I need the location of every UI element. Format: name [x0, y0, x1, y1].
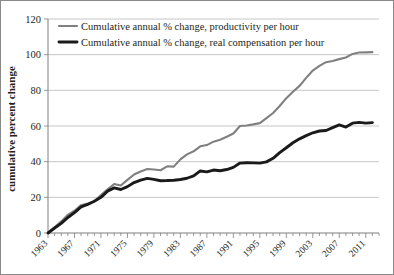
line-chart: 020406080100120 196319671971197519791983…	[1, 1, 394, 275]
x-tick-label: 1995	[241, 238, 262, 259]
y-tick-labels: 020406080100120	[25, 14, 48, 239]
x-tick-label: 1983	[161, 238, 182, 259]
data-series	[48, 52, 372, 233]
y-axis-title: cumulative percent change	[5, 66, 17, 192]
y-tick-label: 0	[36, 228, 41, 239]
y-tick-label: 120	[25, 14, 41, 25]
y-tick-label: 60	[31, 121, 42, 132]
x-tick-label: 1979	[135, 238, 156, 259]
x-tick-label: 1971	[82, 238, 103, 259]
y-tick-label: 20	[31, 192, 42, 203]
x-tick-label: 1963	[29, 238, 50, 259]
x-tick-label: 1987	[188, 238, 209, 259]
y-tick-label: 100	[25, 49, 41, 60]
chart-legend: Cumulative annual % change, productivity…	[59, 21, 325, 48]
legend-label-productivity: Cumulative annual % change, productivity…	[81, 21, 299, 32]
series-line-compensation	[48, 122, 372, 233]
x-tick-label: 1967	[55, 238, 76, 259]
y-tick-label: 40	[31, 156, 42, 167]
x-tick-label: 2007	[320, 238, 341, 259]
series-line-productivity	[48, 52, 372, 233]
legend-label-compensation: Cumulative annual % change, real compens…	[81, 37, 325, 48]
x-tick-label: 2011	[347, 238, 367, 258]
x-ticks	[48, 233, 379, 238]
x-tick-labels: 1963196719711975197919831987199119951999…	[29, 238, 367, 259]
y-tick-label: 80	[31, 85, 42, 96]
x-tick-label: 2003	[294, 238, 315, 259]
x-tick-label: 1975	[108, 238, 129, 259]
y-axis-label: cumulative percent change	[5, 66, 17, 192]
x-tick-label: 1999	[267, 238, 288, 259]
x-tick-label: 1991	[214, 238, 235, 259]
chart-figure: 020406080100120 196319671971197519791983…	[0, 0, 394, 275]
